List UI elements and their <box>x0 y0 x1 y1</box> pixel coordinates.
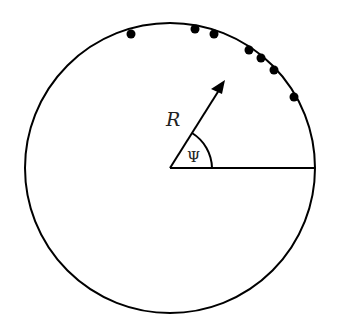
angle-label: Ψ <box>187 148 200 166</box>
circle-diagram: R Ψ <box>0 0 341 331</box>
point-marker <box>210 30 219 39</box>
point-marker <box>257 54 266 63</box>
point-markers <box>127 25 299 102</box>
point-marker <box>191 25 200 34</box>
point-marker <box>290 93 299 102</box>
point-marker <box>127 30 136 39</box>
arrowhead-icon <box>211 80 225 94</box>
radius-label: R <box>165 108 180 130</box>
point-marker <box>245 46 254 55</box>
point-marker <box>270 66 279 75</box>
diagram-canvas: R Ψ <box>0 0 341 331</box>
